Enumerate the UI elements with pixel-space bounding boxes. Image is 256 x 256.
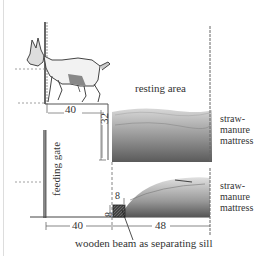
label-resting-area: resting area xyxy=(135,83,186,94)
goat-stall-diagram xyxy=(0,0,256,256)
label-mattress-upper-line3: mattress xyxy=(220,135,253,146)
goat-illustration xyxy=(27,38,110,102)
dimension-beam-height: 8 xyxy=(103,212,114,217)
label-mattress-lower: straw- manure mattress xyxy=(220,180,253,213)
label-mattress-upper-line2: manure xyxy=(220,124,253,135)
label-wooden-beam: wooden beam as separating sill xyxy=(75,238,212,249)
upper-straw-mattress xyxy=(112,108,212,162)
lower-straw-mattress xyxy=(124,177,210,217)
label-mattress-upper: straw- manure mattress xyxy=(220,113,253,146)
label-mattress-lower-line3: mattress xyxy=(220,202,253,213)
label-mattress-lower-line2: manure xyxy=(220,191,253,202)
label-feeding-gate: feeding gate xyxy=(51,142,62,196)
dimension-lower-right: 48 xyxy=(155,219,166,231)
dimension-beam-width: 8 xyxy=(115,190,120,201)
label-mattress-upper-line1: straw- xyxy=(220,113,253,124)
wooden-beam xyxy=(113,205,125,217)
dimension-lower-left: 40 xyxy=(72,219,83,231)
dimension-upper-width: 40 xyxy=(65,103,76,115)
label-mattress-lower-line1: straw- xyxy=(220,180,253,191)
dimension-upper-height: 32 xyxy=(98,113,110,124)
